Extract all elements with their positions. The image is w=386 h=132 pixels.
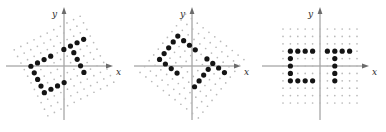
- data-point: [74, 40, 79, 45]
- lattice-dot: [113, 81, 115, 83]
- lattice-dot: [47, 115, 49, 117]
- lattice-dot: [290, 87, 292, 89]
- lattice-dot: [216, 57, 218, 59]
- data-point: [303, 78, 308, 83]
- lattice-dot: [282, 95, 284, 97]
- lattice-dot: [20, 62, 22, 64]
- lattice-dot: [34, 89, 36, 91]
- lattice-dot: [180, 103, 182, 105]
- lattice-dot: [349, 102, 351, 104]
- lattice-dot: [54, 112, 56, 114]
- panel-rotated-left: xy: [0, 0, 128, 132]
- lattice-dot: [80, 48, 82, 50]
- lattice-dot: [50, 105, 52, 107]
- lattice-dot: [327, 43, 329, 45]
- lattice-dot: [319, 58, 321, 60]
- lattice-dot: [173, 88, 175, 90]
- lattice-dot: [327, 65, 329, 67]
- lattice-dot: [356, 73, 358, 75]
- lattice-dot: [243, 59, 245, 61]
- lattice-dot: [297, 58, 299, 60]
- lattice-dot: [40, 52, 42, 54]
- x-axis-label: x: [116, 67, 121, 77]
- data-point: [193, 47, 198, 52]
- lattice-dot: [53, 29, 55, 31]
- lattice-dot: [73, 35, 75, 37]
- data-point: [295, 49, 300, 54]
- lattice-dot: [174, 51, 176, 53]
- lattice-dot: [327, 102, 329, 104]
- lattice-dot: [233, 60, 235, 62]
- data-point: [162, 51, 167, 56]
- data-point: [210, 61, 215, 66]
- data-point: [38, 83, 43, 88]
- lattice-dot: [160, 69, 162, 71]
- lattice-dot: [189, 92, 191, 94]
- lattice-dot: [319, 65, 321, 67]
- lattice-dot: [96, 65, 98, 67]
- lattice-dot: [93, 58, 95, 60]
- lattice-dot: [187, 71, 189, 73]
- lattice-dot: [67, 88, 69, 90]
- lattice-dot: [319, 43, 321, 45]
- x-axis-arrow-icon: [106, 64, 113, 69]
- lattice-dot: [93, 75, 95, 77]
- lattice-dot: [349, 87, 351, 89]
- data-point: [288, 56, 293, 61]
- lattice-dot: [312, 28, 314, 30]
- lattice-dot: [201, 101, 203, 103]
- lattice-dot: [297, 73, 299, 75]
- lattice-dot: [202, 111, 204, 113]
- lattice-dot: [290, 36, 292, 38]
- lattice-dot: [43, 42, 45, 44]
- lattice-dot: [53, 62, 55, 64]
- lattice-dot: [53, 45, 55, 47]
- lattice-dot: [304, 28, 306, 30]
- lattice-dot: [319, 50, 321, 52]
- lattice-dot: [179, 93, 181, 95]
- lattice-dot: [282, 36, 284, 38]
- lattice-dot: [297, 102, 299, 104]
- lattice-dot: [282, 43, 284, 45]
- data-point: [35, 60, 40, 65]
- lattice-dot: [349, 95, 351, 97]
- lattice-dot: [341, 73, 343, 75]
- lattice-dot: [27, 42, 29, 44]
- data-point: [201, 73, 206, 78]
- lattice-dot: [341, 102, 343, 104]
- lattice-dot: [67, 72, 69, 74]
- lattice-dot: [50, 72, 52, 74]
- lattice-dot: [349, 28, 351, 30]
- lattice-dot: [169, 57, 171, 59]
- lattice-dot: [282, 50, 284, 52]
- lattice-dot: [356, 102, 358, 104]
- lattice-dot: [145, 76, 147, 78]
- data-point: [42, 90, 47, 95]
- lattice-dot: [214, 36, 216, 38]
- lattice-dot: [304, 102, 306, 104]
- lattice-dot: [349, 58, 351, 60]
- lattice-dot: [356, 43, 358, 45]
- data-point: [192, 84, 197, 89]
- x-axis-label: x: [244, 67, 249, 77]
- lattice-dot: [334, 95, 336, 97]
- lattice-dot: [23, 69, 25, 71]
- lattice-dot: [73, 19, 75, 21]
- lattice-dot: [183, 87, 185, 89]
- lattice-dot: [319, 95, 321, 97]
- lattice-dot: [172, 78, 174, 80]
- lattice-dot: [46, 32, 48, 34]
- lattice-dot: [166, 74, 168, 76]
- data-point: [332, 49, 337, 54]
- lattice-dot: [47, 82, 49, 84]
- lattice-dot: [190, 102, 192, 104]
- lattice-dot: [297, 95, 299, 97]
- lattice-dot: [211, 100, 213, 102]
- lattice-dot: [319, 36, 321, 38]
- lattice-dot: [319, 102, 321, 104]
- lattice-dot: [181, 29, 183, 31]
- data-point: [204, 56, 209, 61]
- data-point: [48, 54, 53, 59]
- lattice-dot: [63, 98, 65, 100]
- lattice-dot: [43, 75, 45, 77]
